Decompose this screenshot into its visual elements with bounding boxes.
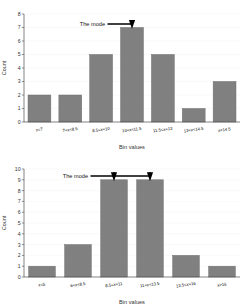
x-tick-label: 6<x<8.5 bbox=[70, 281, 86, 288]
y-axis-title: Count bbox=[1, 60, 7, 75]
bar bbox=[173, 255, 200, 277]
bar bbox=[209, 266, 236, 277]
unimodal-chart-canvas: 012345678x<77<x<8.58.5<x<1010<x<11.511.5… bbox=[0, 0, 244, 152]
bar bbox=[90, 55, 113, 123]
x-tick-label: x<7 bbox=[35, 126, 43, 132]
x-tick-label: x<6 bbox=[38, 281, 46, 287]
y-tick-label: 8 bbox=[18, 11, 21, 17]
y-tick-label: 0 bbox=[18, 119, 21, 125]
y-tick-label: 10 bbox=[15, 166, 21, 172]
bimodal-chart-canvas: 012345678910x<66<x<8.58.5<x<1111<x<13.51… bbox=[0, 155, 244, 307]
x-tick-label: 11.5<x<13 bbox=[153, 126, 174, 134]
y-tick-label: 7 bbox=[18, 198, 21, 204]
y-tick-label: 8 bbox=[18, 188, 21, 194]
x-tick-label: 8.5<x<10 bbox=[92, 126, 111, 133]
y-tick-label: 7 bbox=[18, 24, 21, 30]
bar bbox=[65, 245, 92, 277]
mode-annotation-label: The mode bbox=[63, 173, 88, 179]
x-tick-label: x>14.5 bbox=[218, 126, 232, 133]
y-tick-label: 4 bbox=[18, 65, 21, 71]
x-tick-label: 13<x<14.5 bbox=[183, 126, 204, 134]
y-tick-label: 9 bbox=[18, 177, 21, 183]
y-tick-label: 3 bbox=[18, 78, 21, 84]
y-tick-label: 2 bbox=[18, 92, 21, 98]
x-tick-label: 13.5<x<16 bbox=[176, 281, 197, 289]
y-tick-label: 0 bbox=[18, 274, 21, 280]
x-tick-label: 10<x<11.5 bbox=[122, 126, 143, 134]
y-tick-label: 4 bbox=[18, 231, 21, 237]
x-tick-label: x>16 bbox=[217, 281, 227, 287]
bar bbox=[29, 266, 56, 277]
y-tick-label: 1 bbox=[18, 263, 21, 269]
x-axis-title: Bin values bbox=[119, 144, 145, 150]
mode-annotation-label: The mode bbox=[80, 21, 105, 27]
histogram-unimodal: 012345678x<77<x<8.58.5<x<1010<x<11.511.5… bbox=[0, 0, 244, 152]
bar bbox=[213, 82, 236, 123]
x-tick-label: 8.5<x<11 bbox=[105, 281, 123, 288]
x-tick-label: 7<x<8.5 bbox=[62, 126, 78, 133]
y-tick-label: 3 bbox=[18, 242, 21, 248]
bar bbox=[28, 95, 51, 122]
y-tick-label: 6 bbox=[18, 38, 21, 44]
y-axis-title: Count bbox=[1, 215, 7, 230]
bar bbox=[121, 28, 144, 123]
y-tick-label: 2 bbox=[18, 252, 21, 258]
x-axis-title: Bin values bbox=[119, 299, 145, 305]
bar bbox=[151, 55, 174, 123]
bar bbox=[182, 109, 205, 123]
y-tick-label: 5 bbox=[18, 220, 21, 226]
y-tick-label: 5 bbox=[18, 51, 21, 57]
histogram-bimodal: 012345678910x<66<x<8.58.5<x<1111<x<13.51… bbox=[0, 155, 244, 307]
bar bbox=[137, 180, 164, 277]
bar bbox=[59, 95, 82, 122]
bar bbox=[101, 180, 128, 277]
y-tick-label: 1 bbox=[18, 105, 21, 111]
x-tick-label: 11<x<13.5 bbox=[140, 281, 161, 289]
y-tick-label: 6 bbox=[18, 209, 21, 215]
